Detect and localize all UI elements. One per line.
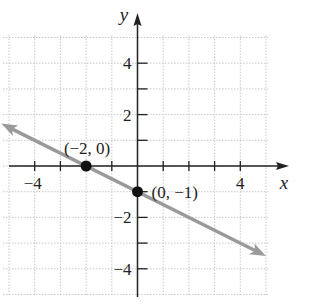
y-tick-label: 4	[123, 54, 132, 73]
y-tick-label: −2	[113, 208, 131, 227]
point-label: (−2, 0)	[64, 139, 110, 158]
point-label: (0, −1)	[152, 183, 198, 202]
x-axis-label: x	[279, 172, 289, 193]
y-tick-label: 2	[123, 106, 132, 125]
data-point	[81, 161, 92, 172]
y-tick-label: −4	[113, 260, 132, 279]
coordinate-plane: −4442−2−4xy(−2, 0)(0, −1)	[0, 0, 309, 308]
y-axis-label: y	[118, 4, 129, 25]
x-tick-label: 4	[236, 174, 245, 193]
data-point	[132, 186, 143, 197]
x-tick-label: −4	[24, 174, 43, 193]
